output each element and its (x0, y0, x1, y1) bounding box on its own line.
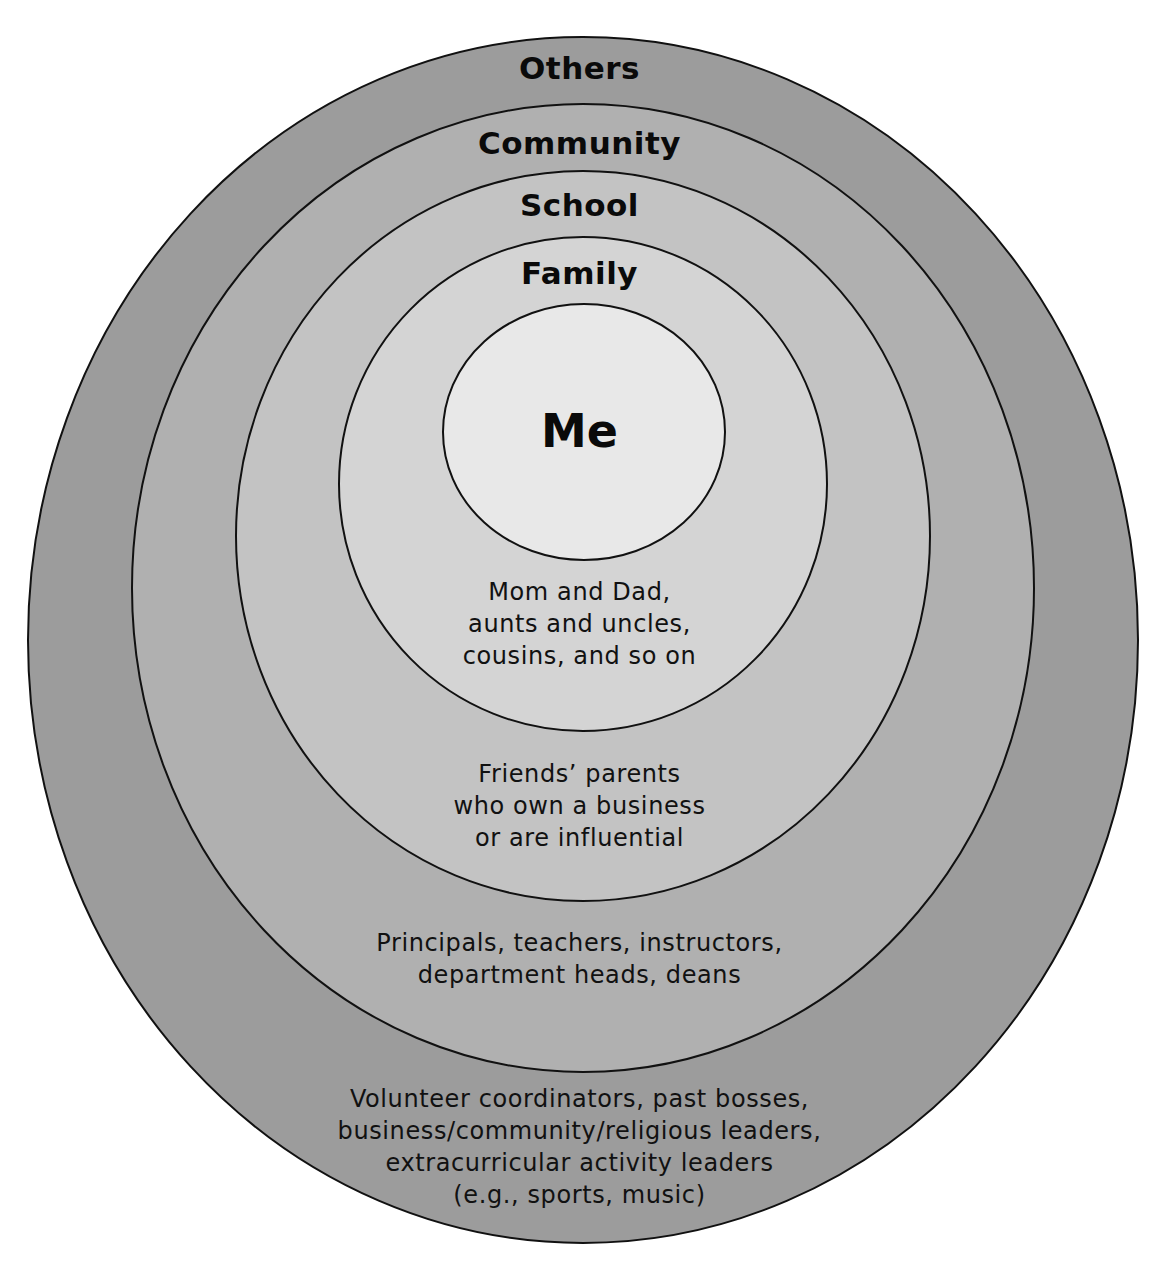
community-title: Community (0, 125, 1159, 161)
me-title: Me (0, 404, 1159, 458)
family-desc-line: aunts and uncles, (0, 608, 1159, 640)
others-desc-line: extracurricular activity leaders (0, 1147, 1159, 1179)
school-description: Friends’ parents who own a business or a… (0, 758, 1159, 854)
community-desc-line: department heads, deans (0, 959, 1159, 991)
family-desc-line: cousins, and so on (0, 640, 1159, 672)
others-desc-line: Volunteer coordinators, past bosses, (0, 1083, 1159, 1115)
others-description: Volunteer coordinators, past bosses, bus… (0, 1083, 1159, 1211)
school-desc-line: Friends’ parents (0, 758, 1159, 790)
school-desc-line: or are influential (0, 822, 1159, 854)
others-desc-line: (e.g., sports, music) (0, 1179, 1159, 1211)
family-desc-line: Mom and Dad, (0, 576, 1159, 608)
school-title: School (0, 187, 1159, 223)
others-desc-line: business/community/religious leaders, (0, 1115, 1159, 1147)
school-desc-line: who own a business (0, 790, 1159, 822)
others-title: Others (0, 50, 1159, 86)
community-description: Principals, teachers, instructors, depar… (0, 927, 1159, 991)
community-desc-line: Principals, teachers, instructors, (0, 927, 1159, 959)
family-description: Mom and Dad, aunts and uncles, cousins, … (0, 576, 1159, 672)
family-title: Family (0, 255, 1159, 291)
